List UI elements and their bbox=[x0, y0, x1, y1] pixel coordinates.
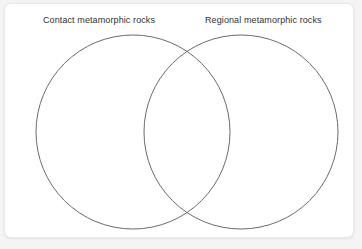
diagram-stage: Contact metamorphic rocks Regional metam… bbox=[0, 0, 362, 249]
venn-circle-regional[interactable] bbox=[144, 35, 338, 229]
venn-label-contact: Contact metamorphic rocks bbox=[43, 15, 155, 26]
venn-label-regional: Regional metamorphic rocks bbox=[205, 15, 322, 26]
venn-circle-contact[interactable] bbox=[36, 35, 230, 229]
venn-diagram bbox=[5, 4, 354, 238]
diagram-card: Contact metamorphic rocks Regional metam… bbox=[4, 3, 354, 238]
